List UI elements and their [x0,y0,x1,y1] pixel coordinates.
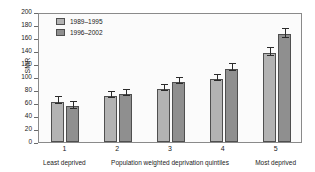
error-bar-cap-top [267,47,274,48]
error-bar-cap-top [214,74,221,75]
error-bar-cap-top [70,101,77,102]
bar[interactable] [51,102,64,142]
y-axis-tick-label: 140 [21,47,32,54]
bar-group [157,14,185,142]
x-axis-tick-label: 2 [87,145,147,152]
error-bar-cap-top [123,89,130,90]
error-bar-cap-bottom [267,55,274,56]
chart-figure: SMR 020406080100120140160180200 1989–199… [0,0,315,172]
legend-item[interactable]: 1996–2002 [56,29,103,36]
x-axis-annotation: Least deprived [4,159,124,166]
bar[interactable] [225,69,238,142]
bar-group [104,14,132,142]
legend-item[interactable]: 1989–1995 [56,18,103,25]
bar-group [263,14,291,142]
y-axis-tick-label: 20 [25,125,32,132]
legend-label: 1989–1995 [70,18,103,25]
error-bar-cap-bottom [123,95,130,96]
bar[interactable] [157,89,170,142]
bar[interactable] [278,34,291,142]
y-axis-tick-label: 80 [25,86,32,93]
error-bar-cap-top [55,96,62,97]
bar[interactable] [263,53,276,142]
error-bar-cap-top [282,28,289,29]
y-axis-tick-label: 40 [25,112,32,119]
error-bar-cap-top [229,63,236,64]
x-axis-tick-label: 1 [34,145,94,152]
error-bar-cap-bottom [161,90,168,91]
x-axis-annotation: Population weighted deprivation quintile… [110,159,230,166]
x-axis-tick-label: 4 [193,145,253,152]
bar[interactable] [66,106,79,142]
bar[interactable] [119,94,132,142]
bar[interactable] [172,82,185,142]
y-axis-tick-label: 100 [21,73,32,80]
y-axis-tick-label: 0 [28,138,32,145]
error-bar-cap-bottom [282,37,289,38]
error-bar-cap-bottom [229,70,236,71]
bar[interactable] [210,79,223,142]
error-bar-cap-top [176,77,183,78]
x-axis-tick-label: 3 [140,145,200,152]
error-bar-cap-top [108,91,115,92]
error-bar-cap-bottom [70,108,77,109]
legend-label: 1996–2002 [70,29,103,36]
y-axis-tick-mark [34,143,38,144]
x-axis-annotation: Most deprived [216,159,315,166]
error-bar-cap-bottom [108,97,115,98]
y-axis-tick-label: 200 [21,8,32,15]
bar[interactable] [104,96,117,142]
chart-legend: 1989–19951996–2002 [56,18,103,40]
error-bar-cap-bottom [55,103,62,104]
error-bar-cap-top [161,84,168,85]
x-axis-tick-label: 5 [246,145,306,152]
y-axis-tick-label: 180 [21,21,32,28]
y-axis-tick-label: 120 [21,60,32,67]
error-bar-cap-bottom [176,83,183,84]
y-axis-tick-label: 160 [21,34,32,41]
legend-swatch [56,29,65,36]
error-bar-cap-bottom [214,80,221,81]
y-axis-tick-label: 60 [25,99,32,106]
legend-swatch [56,18,65,25]
bar-group [210,14,238,142]
